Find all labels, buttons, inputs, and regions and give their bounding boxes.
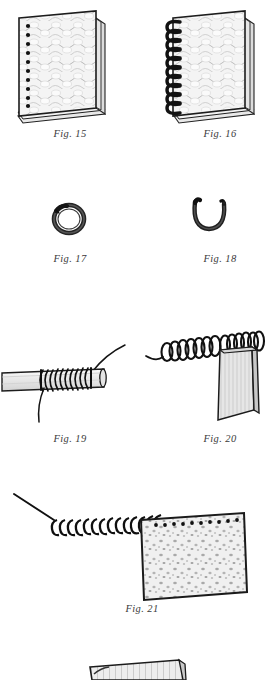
caption-fig17: Fig. 17 <box>20 253 120 264</box>
wire-helix <box>52 517 147 535</box>
wire-tail-upper <box>92 345 125 372</box>
caption-fig15: Fig. 15 <box>20 128 120 139</box>
wire-tail-left <box>146 356 163 359</box>
hook-end-right <box>222 201 226 205</box>
top-sheet <box>19 11 96 116</box>
partial-body <box>90 660 184 680</box>
figure-fig18 <box>184 192 236 240</box>
flat-plate <box>218 347 259 420</box>
figure-fig16 <box>156 4 266 129</box>
figure-fig20 <box>144 328 266 428</box>
open-u-hook <box>195 199 225 229</box>
top-sheet <box>173 11 245 116</box>
caption-fig20: Fig. 20 <box>170 433 270 444</box>
figure-partial-cropped <box>84 656 194 680</box>
figure-fig15 <box>6 4 116 129</box>
caption-fig21: Fig. 21 <box>92 603 192 614</box>
hook-end-left <box>194 199 198 203</box>
figure-fig19 <box>0 322 130 426</box>
wire-tail-lower <box>39 388 44 422</box>
caption-fig18: Fig. 18 <box>170 253 270 264</box>
caption-fig19: Fig. 19 <box>20 433 120 444</box>
caption-fig16: Fig. 16 <box>170 128 270 139</box>
figure-fig21 <box>4 482 260 600</box>
coil-left-of-plate <box>162 336 221 361</box>
wire-lead-tail <box>14 494 54 520</box>
figure-fig17 <box>44 194 98 244</box>
